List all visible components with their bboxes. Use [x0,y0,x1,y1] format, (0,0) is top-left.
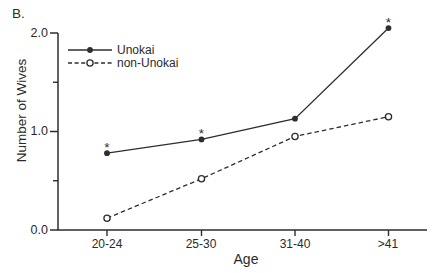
x-axis-title: Age [206,251,286,267]
legend-solid-line-icon [67,43,113,57]
x-tick-label-31-40: 31-40 [265,237,325,251]
x-tick-label-20-24: 20-24 [77,237,137,251]
legend-label-unokai: Unokai [117,43,154,57]
plot-svg: *** [0,0,445,273]
legend: Unokai non-Unokai [67,43,178,70]
x-tick-label-25-30: 25-30 [171,237,231,251]
chart-figure: B. Number of Wives 2.0 1.0 0.0 *** 20-24… [0,0,445,273]
legend-item-non-unokai: non-Unokai [67,57,178,71]
legend-item-unokai: Unokai [67,43,178,57]
significance-asterisk: * [104,140,110,155]
legend-dashed-line-icon [67,56,113,70]
significance-asterisk: * [386,15,392,30]
significance-asterisk: * [199,126,205,141]
x-tick-label-gt-41: >41 [358,237,418,251]
legend-label-non-unokai: non-Unokai [117,56,178,70]
